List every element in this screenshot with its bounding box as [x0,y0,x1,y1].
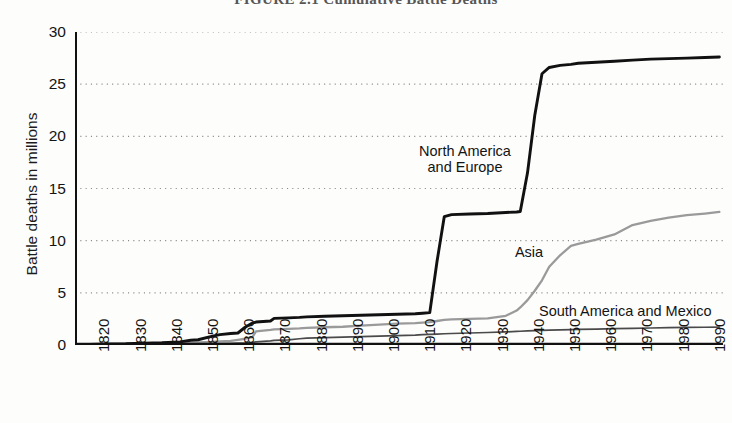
x-tick-label-1970: 1970 [638,290,655,352]
x-tick-label-1830: 1830 [132,290,149,352]
x-tick-label-1860: 1860 [240,290,257,352]
x-tick-label-1820: 1820 [95,290,112,352]
series-label-south-america-and-mexico: South America and Mexico [539,303,717,319]
x-tick-label-1870: 1870 [276,290,293,352]
x-tick-label-1940: 1940 [530,290,547,352]
x-tick-label-1910: 1910 [421,290,438,352]
x-tick-label-1990: 1990 [711,290,728,352]
series-label-asia: Asia [506,244,552,260]
x-tick-label-1850: 1850 [204,290,221,352]
x-tick-label-1980: 1980 [675,290,692,352]
x-tick-label-1890: 1890 [349,290,366,352]
x-tick-label-1900: 1900 [385,290,402,352]
x-tick-label-1960: 1960 [602,290,619,352]
series-label-north-america-and-europe: North America and Europe [406,143,524,175]
x-tick-label-1950: 1950 [566,290,583,352]
x-tick-label-1880: 1880 [313,290,330,352]
x-axis-tick-labels: 1820183018401850186018701880189019001910… [0,0,732,423]
x-tick-label-1920: 1920 [457,290,474,352]
x-tick-label-1840: 1840 [168,290,185,352]
figure-container: FIGURE 2.1 Cumulative Battle Deaths Batt… [0,0,732,423]
x-tick-label-1930: 1930 [494,290,511,352]
